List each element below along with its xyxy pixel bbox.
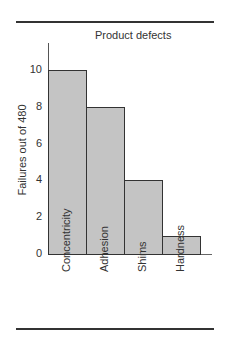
y-tick-label: 8 [22,100,42,112]
y-tick-label: 2 [22,210,42,222]
y-tick-label: 6 [22,137,42,149]
y-tick-label: 0 [22,247,42,259]
chart-title: Product defects [95,29,171,41]
x-tick-label: Concentricity [60,208,72,272]
y-tick-label: 10 [22,63,42,75]
x-tick-label: Hardness [174,225,186,272]
x-tick-label: Adhesion [98,226,110,272]
bottom-rule [16,328,214,330]
top-rule [16,21,214,23]
y-tick-label: 4 [22,173,42,185]
x-tick-label: Shims [136,241,148,272]
